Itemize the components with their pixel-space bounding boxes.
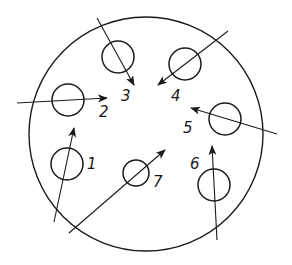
item-label-7: 7 [153,173,163,191]
arrow-icon-4 [158,31,228,85]
circle-arrow-diagram: 1234567 [0,0,292,265]
arrow-icon-5 [191,108,277,134]
arrow-icon-1 [54,128,74,222]
diagram-item-6: 6 [190,146,230,240]
arrow-icon-6 [212,146,217,240]
arrow-icon-2 [17,98,107,103]
item-label-4: 4 [171,87,181,105]
small-circle-1 [51,148,83,180]
small-circle-7 [123,160,149,186]
diagram-item-1: 1 [51,128,97,222]
diagram-item-3: 3 [97,18,134,105]
item-label-6: 6 [190,155,200,173]
small-circle-5 [209,103,241,135]
item-label-3: 3 [121,87,131,105]
item-label-2: 2 [99,103,109,121]
item-label-1: 1 [87,155,97,173]
item-label-5: 5 [183,119,193,137]
